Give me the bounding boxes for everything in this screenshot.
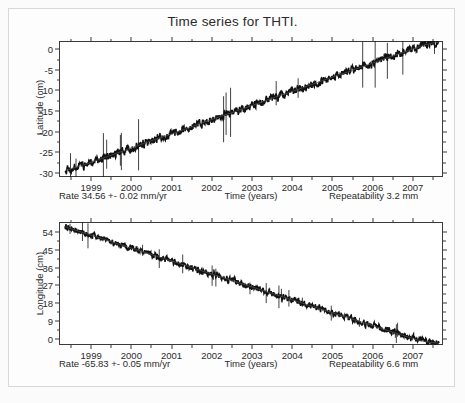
latitude-rate-text: Rate 34.56 +- 0.02 mm/yr <box>59 190 167 201</box>
longitude-ytick-mark-right <box>443 321 447 322</box>
figure-title: Time series for THTI. <box>0 14 465 29</box>
latitude-xtick-mark-top <box>372 37 373 41</box>
longitude-yminor-mark-right <box>443 294 446 295</box>
latitude-xminor-mark <box>432 177 433 180</box>
latitude-axis-label: Latitude (cm) <box>34 63 45 153</box>
latitude-error-bars <box>71 41 435 177</box>
latitude-xaxis-label: Time (years) <box>225 190 278 201</box>
longitude-xminor-mark <box>272 345 273 348</box>
longitude-yminor-mark <box>57 240 60 241</box>
latitude-xminor-mark <box>151 177 152 180</box>
latitude-xtick-mark <box>211 177 212 181</box>
latitude-xtick-mark-top <box>131 37 132 41</box>
longitude-data-band <box>65 224 439 345</box>
longitude-xtick-mark-top <box>211 218 212 222</box>
longitude-xaxis-label: Time (years) <box>225 358 278 369</box>
longitude-ytick-mark <box>55 267 59 268</box>
latitude-xminor-mark <box>392 177 393 180</box>
longitude-xminor-mark-top <box>191 220 192 223</box>
longitude-xtick-mark <box>412 345 413 349</box>
longitude-xtick-mark-top <box>252 218 253 222</box>
longitude-xtick-mark-top <box>292 218 293 222</box>
longitude-xtick-label: 2004 <box>282 350 303 361</box>
longitude-ytick-mark-right <box>443 249 447 250</box>
latitude-xtick-mark-top <box>412 37 413 41</box>
latitude-yminor-mark <box>57 59 60 60</box>
latitude-xtick-mark <box>412 177 413 181</box>
latitude-ytick-mark <box>55 152 59 153</box>
longitude-ytick-mark <box>55 285 59 286</box>
latitude-data-trace <box>59 41 443 177</box>
latitude-ytick-mark-right <box>443 111 447 112</box>
longitude-yminor-mark-right <box>443 240 446 241</box>
longitude-xtick-mark-top <box>412 218 413 222</box>
longitude-yminor-mark-right <box>443 276 446 277</box>
longitude-xminor-mark <box>352 345 353 348</box>
latitude-xminor-mark <box>111 177 112 180</box>
latitude-xtick-mark-top <box>211 37 212 41</box>
latitude-xtick-mark <box>372 177 373 181</box>
latitude-xminor-mark-top <box>151 39 152 42</box>
longitude-ytick-mark-right <box>443 285 447 286</box>
latitude-ytick-mark-right <box>443 152 447 153</box>
longitude-xminor-mark <box>111 345 112 348</box>
longitude-xminor-mark <box>191 345 192 348</box>
latitude-xtick-mark <box>91 177 92 181</box>
longitude-xtick-mark <box>292 345 293 349</box>
latitude-ytick-mark-right <box>443 90 447 91</box>
latitude-xtick-label: 2002 <box>201 182 222 193</box>
latitude-yminor-mark-right <box>443 141 446 142</box>
latitude-xminor-mark-top <box>71 39 72 42</box>
latitude-xminor-mark-top <box>352 39 353 42</box>
latitude-yminor-mark <box>57 141 60 142</box>
longitude-yminor-mark <box>57 312 60 313</box>
longitude-yminor-mark-right <box>443 312 446 313</box>
longitude-xtick-mark <box>252 345 253 349</box>
longitude-xtick-label: 2002 <box>201 350 222 361</box>
longitude-yminor-mark-right <box>443 330 446 331</box>
latitude-ytick-mark <box>55 131 59 132</box>
latitude-xtick-mark-top <box>91 37 92 41</box>
latitude-xminor-mark <box>272 177 273 180</box>
latitude-ytick-mark-right <box>443 172 447 173</box>
longitude-axis-label: Longitude (cm) <box>34 234 45 334</box>
latitude-xminor-mark-top <box>392 39 393 42</box>
longitude-yminor-mark <box>57 258 60 259</box>
latitude-repeatability-text: Repeatability 3.2 mm <box>329 190 418 201</box>
longitude-yminor-mark <box>57 294 60 295</box>
longitude-xminor-mark-top <box>392 220 393 223</box>
longitude-yminor-mark <box>57 330 60 331</box>
longitude-repeatability-text: Repeatability 6.6 mm <box>329 358 418 369</box>
latitude-xtick-mark <box>252 177 253 181</box>
latitude-xtick-label: 2004 <box>282 182 303 193</box>
latitude-yminor-mark-right <box>443 80 446 81</box>
longitude-ytick-mark-right <box>443 339 447 340</box>
longitude-ytick-mark-right <box>443 303 447 304</box>
latitude-yminor-mark <box>57 100 60 101</box>
latitude-xminor-mark <box>312 177 313 180</box>
longitude-ytick-mark <box>55 249 59 250</box>
longitude-xtick-mark <box>171 345 172 349</box>
latitude-xminor-mark <box>231 177 232 180</box>
longitude-xtick-mark-top <box>332 218 333 222</box>
latitude-yminor-mark-right <box>443 162 446 163</box>
longitude-rate-text: Rate -65.83 +- 0.05 mm/yr <box>59 358 170 369</box>
longitude-xtick-mark <box>131 345 132 349</box>
latitude-ytick-mark-right <box>443 69 447 70</box>
latitude-xminor-mark-top <box>191 39 192 42</box>
longitude-xminor-mark-top <box>432 220 433 223</box>
longitude-xminor-mark-top <box>312 220 313 223</box>
latitude-ytick-mark <box>55 90 59 91</box>
longitude-xtick-mark-top <box>171 218 172 222</box>
latitude-yminor-mark <box>57 80 60 81</box>
longitude-ytick-mark-right <box>443 267 447 268</box>
longitude-yminor-mark-right <box>443 258 446 259</box>
longitude-xminor-mark-top <box>151 220 152 223</box>
longitude-xtick-mark-top <box>131 218 132 222</box>
longitude-ytick-mark-right <box>443 231 447 232</box>
longitude-xtick-mark <box>91 345 92 349</box>
longitude-data-trace <box>59 222 443 345</box>
latitude-yminor-mark <box>57 162 60 163</box>
longitude-xminor-mark <box>231 345 232 348</box>
longitude-ytick-mark <box>55 303 59 304</box>
